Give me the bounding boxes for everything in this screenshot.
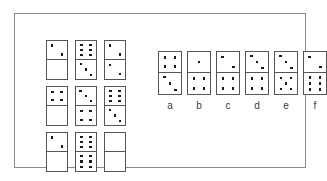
domino-pip bbox=[174, 65, 177, 68]
domino-pip bbox=[256, 61, 259, 64]
matrix-domino-r2c2[interactable] bbox=[75, 86, 97, 126]
matrix-cell[interactable] bbox=[46, 40, 68, 80]
domino-pip bbox=[280, 88, 283, 91]
option-domino-c[interactable] bbox=[216, 51, 240, 95]
matrix-cell[interactable] bbox=[104, 40, 126, 80]
option-b[interactable]: b bbox=[187, 51, 211, 111]
domino-half-bottom bbox=[159, 73, 181, 94]
matrix-cell[interactable] bbox=[46, 132, 68, 172]
domino-half-bottom bbox=[76, 60, 96, 79]
domino-half-bottom bbox=[47, 152, 67, 171]
domino-pip bbox=[250, 55, 253, 58]
option-e[interactable]: e bbox=[274, 51, 298, 111]
domino-half-bottom bbox=[76, 106, 96, 125]
domino-pip bbox=[114, 114, 117, 117]
domino-pip bbox=[251, 77, 254, 80]
domino-half-top bbox=[246, 52, 268, 73]
option-domino-e[interactable] bbox=[274, 51, 298, 95]
matrix-domino-r3c3-missing[interactable] bbox=[104, 132, 126, 172]
matrix-domino-r2c3[interactable] bbox=[104, 86, 126, 126]
matrix-cell[interactable] bbox=[46, 86, 68, 126]
domino-pip bbox=[60, 99, 63, 102]
option-domino-a[interactable] bbox=[158, 51, 182, 95]
domino-half-bottom bbox=[47, 60, 67, 79]
matrix-domino-r1c1[interactable] bbox=[46, 40, 68, 80]
option-domino-b[interactable] bbox=[187, 51, 211, 95]
domino-half-top bbox=[217, 52, 239, 73]
domino-pip bbox=[60, 91, 63, 94]
domino-pip bbox=[85, 68, 88, 71]
matrix-domino-r1c2[interactable] bbox=[75, 40, 97, 80]
domino-pip bbox=[80, 160, 83, 163]
domino-pip bbox=[89, 155, 92, 158]
domino-pip bbox=[89, 160, 92, 163]
matrix-row bbox=[46, 40, 128, 80]
domino-half-top bbox=[105, 87, 125, 106]
option-a[interactable]: a bbox=[158, 51, 182, 111]
domino-half-top bbox=[304, 52, 326, 73]
option-f[interactable]: f bbox=[303, 51, 327, 111]
domino-pip bbox=[309, 76, 312, 79]
domino-pip bbox=[80, 146, 83, 149]
domino-pip bbox=[89, 141, 92, 144]
matrix-domino-r3c2[interactable] bbox=[75, 132, 97, 172]
domino-pip bbox=[319, 82, 322, 85]
option-label-b: b bbox=[187, 100, 211, 111]
domino-half-bottom bbox=[47, 106, 67, 125]
domino-pip bbox=[90, 74, 93, 77]
domino-half-top bbox=[105, 41, 125, 60]
domino-pip bbox=[203, 87, 206, 90]
domino-pip bbox=[89, 44, 92, 47]
domino-pip bbox=[193, 87, 196, 90]
domino-pip bbox=[119, 53, 122, 56]
option-c[interactable]: c bbox=[216, 51, 240, 111]
domino-pip bbox=[174, 56, 177, 59]
domino-pip bbox=[80, 63, 83, 66]
domino-pip bbox=[80, 119, 83, 122]
domino-pip bbox=[109, 44, 112, 47]
domino-half-bottom bbox=[105, 60, 125, 79]
domino-pip bbox=[198, 61, 201, 64]
matrix-cell[interactable] bbox=[75, 132, 97, 172]
domino-half-top bbox=[188, 52, 210, 73]
option-domino-f[interactable] bbox=[303, 51, 327, 95]
domino-pip bbox=[309, 82, 312, 85]
matrix-row bbox=[46, 132, 128, 172]
domino-half-top bbox=[76, 133, 96, 152]
domino-pip bbox=[109, 64, 112, 67]
domino-pip bbox=[261, 87, 264, 90]
domino-pip bbox=[319, 76, 322, 79]
matrix-cell[interactable] bbox=[104, 132, 126, 172]
domino-pip bbox=[80, 49, 83, 52]
domino-pip bbox=[279, 55, 282, 58]
matrix-domino-r2c1[interactable] bbox=[46, 86, 68, 126]
matrix-row bbox=[46, 86, 128, 126]
domino-pip bbox=[203, 77, 206, 80]
option-d[interactable]: d bbox=[245, 51, 269, 111]
matrix-cell[interactable] bbox=[75, 86, 97, 126]
matrix-cell[interactable] bbox=[104, 86, 126, 126]
domino-half-top bbox=[76, 87, 96, 106]
domino-half-bottom bbox=[76, 152, 96, 171]
domino-pip bbox=[232, 66, 235, 69]
domino-pip bbox=[280, 77, 283, 80]
option-domino-d[interactable] bbox=[245, 51, 269, 95]
domino-pip bbox=[89, 49, 92, 52]
domino-pip bbox=[80, 155, 83, 158]
domino-pip bbox=[79, 90, 82, 93]
matrix-cell[interactable] bbox=[75, 40, 97, 80]
domino-pip bbox=[319, 88, 322, 91]
matrix-domino-r3c1[interactable] bbox=[46, 132, 68, 172]
domino-pip bbox=[261, 67, 264, 70]
domino-pip bbox=[85, 95, 88, 98]
domino-pip bbox=[290, 67, 293, 70]
domino-pip bbox=[61, 145, 64, 148]
matrix-domino-r1c3[interactable] bbox=[104, 40, 126, 80]
domino-pip bbox=[285, 82, 288, 85]
domino-pip bbox=[221, 56, 224, 59]
domino-pip bbox=[119, 120, 122, 123]
domino-pip bbox=[61, 53, 64, 56]
domino-pip bbox=[232, 87, 235, 90]
domino-pip bbox=[89, 166, 92, 169]
domino-pip bbox=[80, 44, 83, 47]
